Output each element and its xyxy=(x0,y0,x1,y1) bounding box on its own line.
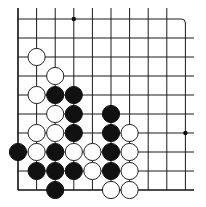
black-stone xyxy=(65,105,82,122)
white-stone xyxy=(121,143,138,160)
black-stone xyxy=(65,162,82,179)
black-stone xyxy=(47,162,64,179)
white-stone xyxy=(28,143,45,160)
black-stone xyxy=(47,143,64,160)
white-stone xyxy=(28,86,45,103)
white-stone xyxy=(47,124,64,141)
star-point-icon xyxy=(183,131,187,135)
black-stone xyxy=(102,124,119,141)
black-stone xyxy=(65,124,82,141)
white-stone xyxy=(121,162,138,179)
black-stone xyxy=(28,162,45,179)
white-stone xyxy=(102,181,119,198)
white-stone xyxy=(84,162,101,179)
black-stone xyxy=(65,86,82,103)
white-stone xyxy=(28,124,45,141)
white-stone xyxy=(84,143,101,160)
black-stone xyxy=(102,143,119,160)
black-stone xyxy=(9,143,26,160)
grid-corner-curve xyxy=(181,19,185,23)
white-stone xyxy=(121,124,138,141)
black-stone xyxy=(47,86,64,103)
star-point-icon xyxy=(72,17,76,21)
white-stone xyxy=(47,67,64,84)
black-stone xyxy=(102,105,119,122)
black-stone xyxy=(47,181,64,198)
white-stone xyxy=(121,181,138,198)
white-stone xyxy=(28,48,45,65)
black-stone xyxy=(102,162,119,179)
white-stone xyxy=(47,105,64,122)
go-board xyxy=(0,0,206,207)
white-stone xyxy=(65,143,82,160)
